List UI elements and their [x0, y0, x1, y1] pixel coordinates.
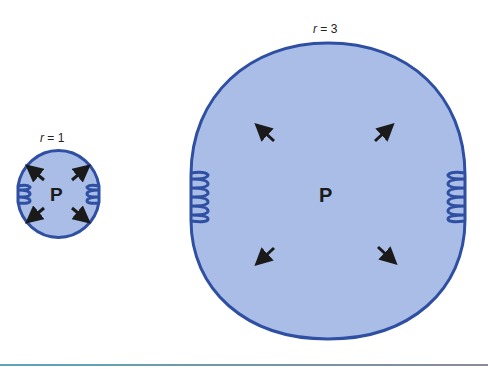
small-cell-radius-label: r = 1	[40, 131, 64, 145]
bottom-divider	[0, 364, 488, 366]
large-cell-pressure-label: P	[319, 184, 332, 207]
large-cell-radius-label: r = 3	[313, 22, 337, 36]
small-cell-pressure-label: P	[50, 184, 63, 206]
diagram-canvas	[0, 0, 488, 369]
